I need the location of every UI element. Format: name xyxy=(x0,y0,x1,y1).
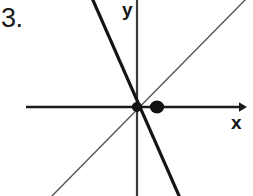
x-axis-arrow-icon xyxy=(239,102,247,112)
x-axis-point-marker xyxy=(150,101,164,114)
coordinate-plane-svg xyxy=(0,0,253,196)
diagonal-positive-line xyxy=(50,0,247,196)
x-axis-label: x xyxy=(231,113,242,132)
origin-point-marker xyxy=(132,102,142,112)
graph-figure: 3. y x xyxy=(0,0,253,196)
y-axis-label: y xyxy=(122,0,133,19)
